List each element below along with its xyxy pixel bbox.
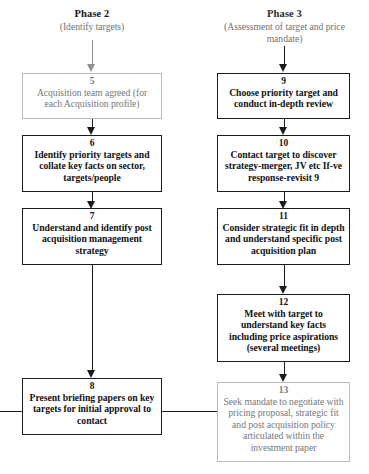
node-5-text: Acquisition team agreed (for each Acquis… [23, 87, 161, 110]
node-9[interactable]: 9 Choose priority target and conduct in-… [217, 73, 350, 119]
node-8-number: 8 [90, 381, 95, 392]
node-10-number: 10 [279, 138, 289, 149]
phase-2-header: Phase 2 (Identify targets) [22, 8, 162, 33]
arrowhead-node9-to-node10 [279, 127, 287, 135]
node-7-text: Understand and identify post acquisition… [23, 222, 161, 257]
arrowhead-node5-to-node6 [87, 127, 95, 135]
phase-2-subtitle: (Identify targets) [22, 21, 162, 33]
node-9-number: 9 [281, 76, 286, 87]
node-6-text: Identify priority targets and collate ke… [23, 149, 161, 184]
arrowhead-node12-to-node13 [279, 374, 287, 382]
node-6-number: 6 [90, 138, 95, 149]
node-12-number: 12 [279, 297, 289, 308]
node-5-number: 5 [90, 76, 95, 87]
arrowhead-phase3-to-node9 [279, 64, 287, 72]
node-8[interactable]: 8 Present briefing papers on key targets… [22, 378, 162, 435]
node-11-text: Consider strategic fit in depth and unde… [218, 222, 349, 257]
node-11-number: 11 [279, 211, 288, 222]
connector-phase2-to-node5 [92, 40, 93, 65]
node-13[interactable]: 13 Seek mandate to negotiate with pricin… [217, 382, 350, 462]
phase-2-title: Phase 2 [22, 8, 162, 20]
node-8-text: Present briefing papers on key targets f… [23, 392, 161, 427]
arrowhead-node11-to-node12 [279, 286, 287, 294]
node-7[interactable]: 7 Understand and identify post acquisiti… [22, 208, 162, 265]
phase-3-title: Phase 3 [207, 8, 362, 20]
node-10-text: Contact target to discover strategy-merg… [218, 149, 349, 184]
node-11[interactable]: 11 Consider strategic fit in depth and u… [217, 208, 350, 265]
node-13-text: Seek mandate to negotiate with pricing p… [218, 396, 349, 454]
node-6[interactable]: 6 Identify priority targets and collate … [22, 135, 162, 192]
connector-node11-to-node12 [284, 265, 285, 288]
phase-3-header: Phase 3 (Assessment of target and price … [207, 8, 362, 44]
arrowhead-phase2-to-node5 [87, 64, 95, 72]
node-12-text: Meet with target to understand key facts… [218, 308, 349, 354]
connector-left-stub-node8 [0, 411, 22, 412]
connector-node8-to-node13 [162, 411, 217, 412]
node-13-number: 13 [279, 385, 289, 396]
arrowhead-node7-to-node8 [87, 370, 95, 378]
connector-phase3-to-node9 [284, 46, 285, 66]
node-12[interactable]: 12 Meet with target to understand key fa… [217, 294, 350, 362]
node-7-number: 7 [90, 211, 95, 222]
node-9-text: Choose priority target and conduct in-de… [218, 87, 349, 110]
node-10[interactable]: 10 Contact target to discover strategy-m… [217, 135, 350, 192]
connector-node7-to-node8 [92, 265, 93, 373]
flowchart-canvas: Phase 2 (Identify targets) Phase 3 (Asse… [0, 0, 369, 474]
node-5[interactable]: 5 Acquisition team agreed (for each Acqu… [22, 73, 162, 119]
phase-3-subtitle: (Assessment of target and price mandate) [207, 21, 362, 44]
